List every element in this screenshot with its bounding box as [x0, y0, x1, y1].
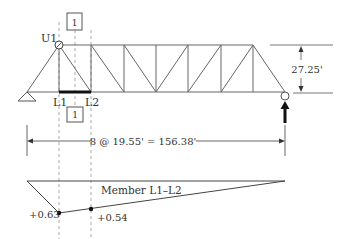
- influence-line-title: Member L1–L2: [101, 184, 182, 196]
- end-post-right: [253, 45, 285, 92]
- diagonal-l5-u6: [188, 45, 221, 92]
- influence-point-l2: [89, 207, 93, 211]
- label-l2: L2: [85, 96, 99, 109]
- end-post-left: [27, 45, 59, 92]
- label-u1: U1: [41, 32, 57, 45]
- roller-support-icon: [281, 92, 289, 100]
- influence-value-l1: +0.63: [29, 209, 60, 220]
- truss-diagram: 1 1 U1 L1 L2 27.25' 8 @ 19.55' = 156.38'…: [0, 0, 350, 239]
- pin-support-icon: [18, 92, 36, 101]
- section-label-top: 1: [72, 18, 78, 28]
- section-lines: [59, 22, 91, 239]
- diagonal-l4-u5: [156, 45, 188, 92]
- label-l1: L1: [53, 96, 67, 109]
- influence-value-l2: +0.54: [97, 212, 128, 223]
- diagonal-l6-u7: [221, 45, 253, 92]
- section-box-top: 1: [67, 13, 82, 30]
- diagonal-u3-l4: [124, 45, 156, 92]
- span-dimension-label: 8 @ 19.55' = 156.38': [90, 136, 197, 147]
- section-box-bottom: 1: [67, 107, 83, 122]
- diagonal-u2-l3: [91, 45, 124, 92]
- height-dimension-label: 27.25': [291, 64, 322, 75]
- section-label-bottom: 1: [72, 110, 78, 120]
- reaction-arrow-icon: [281, 101, 290, 123]
- truss: [27, 45, 285, 92]
